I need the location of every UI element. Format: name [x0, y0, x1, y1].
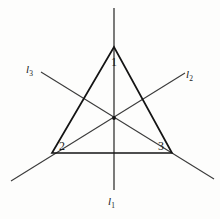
axis-label-l3: l3: [26, 64, 33, 75]
centroid-point: [112, 116, 116, 120]
geometry-figure: l3 l2 l1 1 2 3: [0, 0, 220, 219]
axis-line-l2: [11, 73, 185, 181]
vertex-label-2: 2: [59, 140, 65, 152]
axis-label-l1: l1: [108, 196, 115, 207]
axis-label-l2: l2: [186, 69, 193, 80]
vertex-label-1: 1: [111, 56, 117, 68]
vertex-label-3: 3: [158, 140, 164, 152]
figure-canvas: [0, 0, 220, 219]
axis-label-l3-subscript: 3: [29, 69, 33, 78]
axis-label-l2-subscript: 2: [189, 74, 193, 83]
axis-label-l1-subscript: 1: [111, 201, 115, 210]
axis-line-l3: [41, 72, 214, 179]
